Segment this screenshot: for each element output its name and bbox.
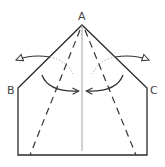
right-fold-line xyxy=(85,30,136,155)
origami-diagram: A B C xyxy=(0,0,165,167)
left-fold-arrow xyxy=(42,75,78,91)
left-fold-line xyxy=(30,30,80,155)
left-unfold-arrow xyxy=(16,56,50,60)
right-fold-arrow xyxy=(87,75,123,91)
right-dotted-arc xyxy=(92,57,115,74)
right-unfold-arrow xyxy=(115,56,149,60)
label-c: C xyxy=(150,84,158,97)
label-b: B xyxy=(7,84,15,97)
label-a: A xyxy=(78,10,86,23)
left-dotted-arc xyxy=(50,57,73,74)
